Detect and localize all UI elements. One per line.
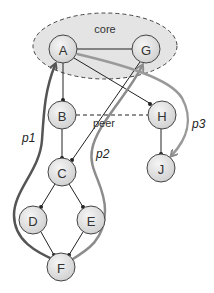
node-f: F — [47, 253, 75, 281]
core-label: core — [94, 23, 115, 35]
svg-text:C: C — [57, 166, 66, 181]
peer-label: peer — [93, 117, 115, 129]
network-diagram: core peer p1 p2 p3 A G B H C J D — [0, 0, 214, 293]
edge-c-d — [41, 184, 55, 207]
svg-text:F: F — [57, 261, 65, 276]
svg-text:J: J — [158, 162, 165, 177]
p3-label: p3 — [191, 117, 206, 131]
edge-d-f — [41, 232, 54, 255]
node-h: H — [148, 101, 176, 129]
svg-text:B: B — [58, 109, 67, 124]
svg-text:G: G — [141, 43, 151, 58]
node-g: G — [132, 35, 160, 63]
svg-text:A: A — [59, 43, 68, 58]
p2-label: p2 — [95, 147, 110, 161]
node-e: E — [77, 206, 105, 234]
node-d: D — [19, 206, 47, 234]
node-c: C — [48, 158, 76, 186]
p1-label: p1 — [21, 131, 35, 145]
svg-text:D: D — [28, 214, 37, 229]
path-p2 — [68, 66, 142, 262]
node-j: J — [147, 154, 175, 182]
edge-e-f — [69, 232, 83, 255]
svg-text:E: E — [87, 214, 96, 229]
svg-text:H: H — [157, 109, 166, 124]
node-a: A — [49, 35, 77, 63]
node-b: B — [48, 101, 76, 129]
edge-c-e — [69, 184, 83, 207]
